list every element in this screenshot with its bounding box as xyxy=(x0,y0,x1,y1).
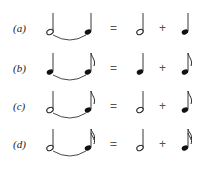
row-b-part2 xyxy=(181,53,192,76)
row-c-part1 xyxy=(136,91,144,114)
notation-diagram xyxy=(0,0,217,172)
row-b-tied-notes xyxy=(46,53,95,80)
row-a-part1 xyxy=(136,13,144,36)
row-b-part1 xyxy=(136,53,144,76)
row-c-part2 xyxy=(181,91,192,114)
row-c-tied-notes xyxy=(46,91,95,118)
row-d-part1 xyxy=(136,129,144,152)
row-d-tied-notes xyxy=(46,129,95,156)
row-a-tied-notes xyxy=(46,13,92,40)
row-a-part2 xyxy=(181,13,189,36)
row-d-part2 xyxy=(181,129,192,152)
